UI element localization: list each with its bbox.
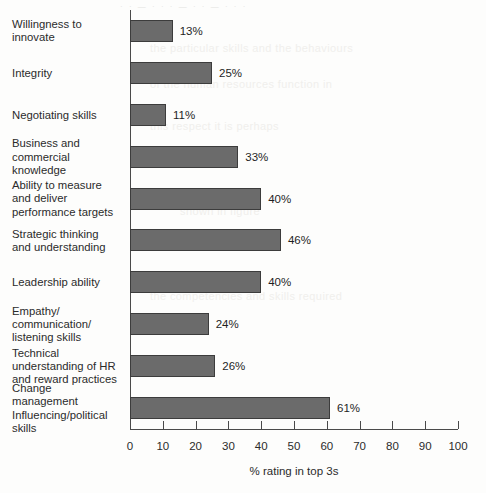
bar-value-label: 13% (180, 25, 203, 37)
bar (130, 146, 238, 168)
x-tick-mark (425, 421, 426, 429)
bar-value-label: 25% (219, 67, 242, 79)
bar-value-label: 26% (222, 360, 245, 372)
x-tick-mark (196, 421, 197, 429)
bar-value-label: 40% (268, 276, 291, 288)
bar (130, 104, 166, 126)
x-axis-title: % rating in top 3s (130, 465, 458, 477)
bar-value-label: 24% (216, 318, 239, 330)
bar-value-label: 40% (268, 193, 291, 205)
x-tick-mark (228, 421, 229, 429)
x-tick-mark (327, 421, 328, 429)
x-tick-label: 90 (419, 440, 432, 452)
x-tick-mark (261, 421, 262, 429)
category-label: Integrity (12, 67, 128, 80)
bar-value-label: 61% (337, 402, 360, 414)
x-tick-label: 80 (386, 440, 399, 452)
category-label: Empathy/ communication/ listening skills (12, 305, 128, 345)
x-tick-label: 50 (288, 440, 301, 452)
page-bleedthrough-top: · · — · · · — · · — · · · (120, 2, 460, 10)
x-tick-label: 100 (448, 440, 467, 452)
x-tick-mark (458, 421, 459, 429)
bar-value-label: 11% (173, 109, 195, 121)
x-tick-label: 60 (320, 440, 333, 452)
category-label: Leadership ability (12, 276, 128, 289)
bar (130, 229, 281, 251)
category-label: Ability to measure and deliver performan… (12, 179, 128, 219)
x-tick-label: 70 (353, 440, 366, 452)
bar (130, 355, 215, 377)
category-label: Strategic thinking and understanding (12, 228, 128, 254)
x-tick-label: 20 (189, 440, 202, 452)
x-tick-label: 40 (255, 440, 268, 452)
x-tick-mark (130, 421, 131, 429)
x-tick-label: 30 (222, 440, 235, 452)
bar-value-label: 46% (288, 234, 311, 246)
x-tick-label: 10 (156, 440, 169, 452)
x-axis-line (130, 429, 458, 430)
x-tick-label: 0 (127, 440, 133, 452)
bar (130, 20, 173, 42)
category-label: Willingness to innovate (12, 18, 128, 44)
bar (130, 188, 261, 210)
bar (130, 313, 209, 335)
x-tick-mark (360, 421, 361, 429)
category-label: Change management Influencing/political … (12, 382, 128, 435)
category-label: Negotiating skills (12, 109, 128, 122)
plot-area: 0102030405060708090100 13%25%11%33%40%46… (130, 10, 458, 429)
bar-value-label: 33% (245, 151, 268, 163)
bar (130, 271, 261, 293)
x-tick-mark (392, 421, 393, 429)
x-tick-mark (294, 421, 295, 429)
bar (130, 397, 330, 419)
x-tick-mark (163, 421, 164, 429)
category-label: Technical understanding of HR and reward… (12, 347, 128, 387)
chart-container: · · — · · · — · · — · · · the particular… (0, 0, 486, 493)
bar (130, 62, 212, 84)
category-label: Business and commercial knowledge (12, 137, 128, 177)
